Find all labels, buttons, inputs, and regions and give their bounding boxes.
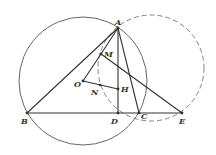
- label-o: O: [74, 79, 81, 89]
- label-e: E: [178, 116, 186, 126]
- segment-ac: [118, 28, 139, 113]
- point-c: [138, 112, 141, 115]
- point-b: [26, 112, 29, 115]
- point-o: [82, 80, 85, 83]
- label-b: B: [20, 116, 28, 126]
- point-d: [117, 112, 120, 115]
- dashed-circle: [98, 15, 204, 121]
- point-m: [100, 53, 103, 56]
- label-m: M: [103, 49, 114, 59]
- label-c: C: [141, 111, 148, 121]
- segment-ab: [27, 28, 118, 113]
- point-h: [117, 88, 120, 91]
- point-e: [181, 112, 184, 115]
- label-a: A: [114, 17, 121, 27]
- label-d: D: [110, 116, 118, 126]
- label-h: H: [120, 84, 129, 94]
- geometry-diagram: A B C D E M O N H: [0, 0, 216, 155]
- label-n: N: [90, 87, 99, 97]
- point-a: [117, 27, 120, 30]
- segment-me: [101, 54, 182, 113]
- point-n: [99, 84, 101, 86]
